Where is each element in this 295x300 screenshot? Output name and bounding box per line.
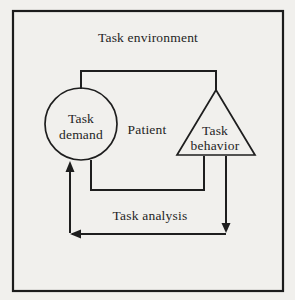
patient-label: Patient bbox=[128, 122, 167, 137]
task-behavior-label-line1: Task bbox=[202, 123, 228, 138]
page-background bbox=[0, 0, 295, 300]
task-demand-label-line2: demand bbox=[59, 127, 103, 142]
task-environment-label: Task environment bbox=[98, 30, 198, 45]
task-behavior-label-line2: behavior bbox=[191, 138, 240, 153]
task-demand-label-line1: Task bbox=[68, 111, 94, 126]
task-analysis-label: Task analysis bbox=[113, 208, 188, 223]
diagram-canvas: Task environment Task demand Patient Tas… bbox=[0, 0, 295, 300]
figure: Task environment Task demand Patient Tas… bbox=[0, 0, 295, 300]
